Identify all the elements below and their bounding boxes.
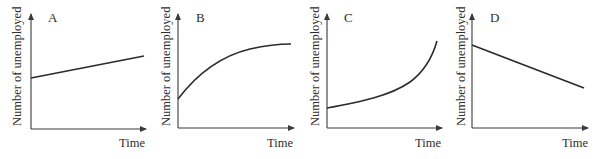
y-axis-label: Number of unemployed xyxy=(308,6,322,126)
y-axis-label: Number of unemployed xyxy=(10,6,24,126)
curve-c xyxy=(327,41,437,108)
x-axis-label: Time xyxy=(267,136,293,150)
line-d xyxy=(472,45,584,88)
x-axis-label: Time xyxy=(415,136,441,150)
panel-title: C xyxy=(344,10,353,25)
chart-panel-a: A Time Number of unemployed xyxy=(10,6,146,150)
x-axis-label: Time xyxy=(119,136,145,150)
panel-title: D xyxy=(490,10,499,25)
panel-title: A xyxy=(48,10,58,25)
y-axis-label: Number of unemployed xyxy=(159,6,173,126)
four-unemployment-charts: A Time Number of unemployed B Time Numbe… xyxy=(0,0,597,159)
x-axis-label: Time xyxy=(562,136,588,150)
line-a xyxy=(31,56,144,78)
chart-panel-c: C Time Number of unemployed xyxy=(308,6,442,150)
y-axis-label: Number of unemployed xyxy=(454,6,468,126)
chart-panel-d: D Time Number of unemployed xyxy=(454,6,588,150)
panel-title: B xyxy=(196,10,205,25)
curve-b xyxy=(178,44,291,99)
chart-panel-b: B Time Number of unemployed xyxy=(159,6,294,150)
